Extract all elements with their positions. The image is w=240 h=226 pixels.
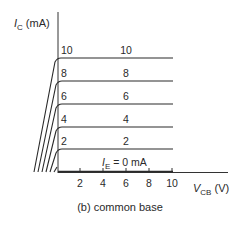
svg-text:8: 8: [61, 67, 67, 79]
chart: 2 4 6 8 10 10 8 6 4 2 10 8 6 4 2 IE = 0 …: [0, 0, 240, 226]
svg-text:6: 6: [123, 177, 129, 189]
y-axis-title: IC(mA): [14, 17, 50, 32]
curve-ie-0: [54, 167, 57, 172]
x-tick-labels: 2 4 6 8 10: [77, 177, 178, 189]
svg-text:8: 8: [146, 177, 152, 189]
svg-text:8: 8: [123, 67, 129, 79]
svg-text:10: 10: [61, 44, 73, 56]
svg-text:6: 6: [61, 90, 67, 102]
curves: [34, 58, 173, 172]
svg-text:4: 4: [61, 113, 67, 125]
svg-text:2: 2: [77, 177, 83, 189]
svg-text:2: 2: [123, 135, 129, 147]
left-curve-labels: 10 8 6 4 2: [61, 44, 73, 147]
svg-text:10: 10: [120, 44, 132, 56]
svg-text:6: 6: [123, 90, 129, 102]
mid-curve-labels: 10 8 6 4 2: [120, 44, 132, 147]
svg-text:4: 4: [123, 113, 129, 125]
figure-caption: (b) common base: [0, 201, 240, 213]
svg-text:10: 10: [166, 177, 178, 189]
svg-text:4: 4: [100, 177, 106, 189]
ie-zero-annotation: IE = 0 mA: [102, 156, 147, 171]
x-axis-title: VCB(V): [193, 182, 229, 197]
svg-text:2: 2: [61, 135, 67, 147]
